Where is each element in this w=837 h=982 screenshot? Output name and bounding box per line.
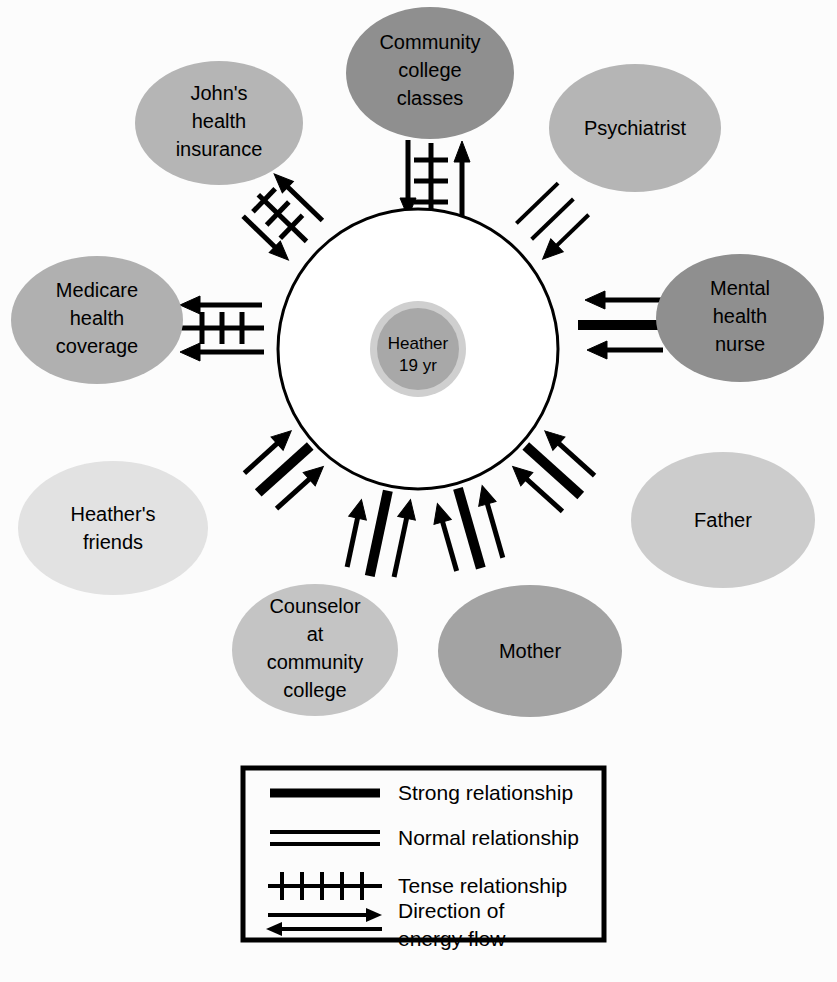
legend-box: Strong relationship Normal relationship: [243, 768, 604, 950]
node-label-line: nurse: [715, 333, 765, 355]
node-label-line: health: [192, 110, 247, 132]
center-label-line1: Heather: [388, 334, 449, 353]
node-mental-health-nurse[interactable]: Mental health nurse: [656, 254, 824, 382]
node-label-line: coverage: [56, 335, 138, 357]
node-medicare-health-coverage[interactable]: Medicare health coverage: [11, 256, 183, 384]
legend-label-energy-line1: Direction of: [398, 899, 504, 922]
node-father[interactable]: Father: [631, 452, 815, 588]
node-label-line: Medicare: [56, 279, 138, 301]
node-label-line: friends: [83, 531, 143, 553]
node-psychiatrist[interactable]: Psychiatrist: [549, 64, 721, 192]
node-label-line: Mental: [710, 277, 770, 299]
node-counselor-at-community-college[interactable]: Counselor at community college: [232, 584, 398, 716]
node-label-line: Community: [379, 31, 480, 53]
node-mother[interactable]: Mother: [438, 585, 622, 717]
legend-label-strong: Strong relationship: [398, 781, 573, 804]
legend-label-energy-line2: energy flow: [398, 927, 506, 950]
node-label-line: classes: [397, 87, 464, 109]
ecomap-svg: Heather 19 yr Community college classes …: [0, 0, 837, 982]
node-label-line: college: [398, 59, 461, 81]
node-johns-health-insurance[interactable]: John's health insurance: [135, 61, 303, 185]
node-heathers-friends[interactable]: Heather's friends: [18, 461, 208, 595]
node-label-line: health: [70, 307, 125, 329]
node-label-line: Father: [694, 509, 752, 531]
node-label-line: college: [283, 679, 346, 701]
legend-label-normal: Normal relationship: [398, 826, 579, 849]
node-community-college-classes[interactable]: Community college classes: [346, 7, 514, 139]
node-label-line: Counselor: [269, 595, 361, 617]
center-label-line2: 19 yr: [399, 356, 437, 375]
connector-medicare-health-coverage: [178, 296, 264, 361]
node-label-line: Mother: [499, 640, 562, 662]
node-label-line: health: [713, 305, 768, 327]
node-label-line: John's: [190, 82, 247, 104]
node-label-line: community: [267, 651, 364, 673]
node-label-line: insurance: [176, 138, 263, 160]
node-label-line: at: [307, 623, 324, 645]
node-label-line: Psychiatrist: [584, 117, 687, 139]
legend-label-tense: Tense relationship: [398, 874, 567, 897]
connector-mental-health-nurse: [578, 291, 665, 359]
node-label-line: Heather's: [71, 503, 156, 525]
ecomap-page: Heather 19 yr Community college classes …: [0, 0, 837, 982]
